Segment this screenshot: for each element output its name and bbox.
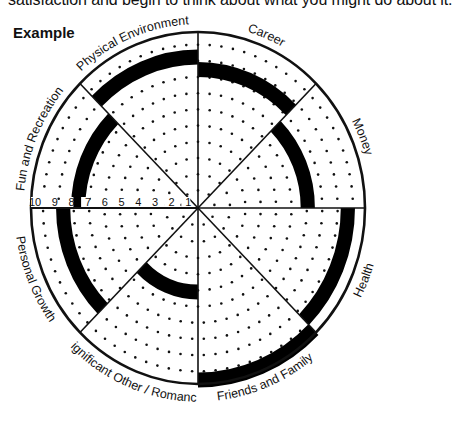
ring-dot [71,302,74,305]
ring-dot [90,185,93,188]
ring-dot [273,188,276,191]
ring-dot [320,139,323,142]
ring-dot [311,258,314,261]
ring-dot [162,298,165,301]
ring-dot [108,237,111,240]
ring-dot [348,173,351,176]
ring-dot [118,260,121,263]
ring-dot [276,154,279,157]
ring-dot [100,289,103,292]
ring-dot [152,293,155,296]
ring-dot [185,158,188,161]
ring-dot [168,334,171,337]
ring-dot [264,166,267,169]
ring-dot [295,257,298,260]
ring-dot [286,176,289,179]
ring-dot [173,302,176,305]
ring-dot [258,155,261,158]
ring-dot [261,279,264,282]
ring-number: 4 [135,196,141,208]
ring-dot [88,210,91,213]
segment-label: Money [349,116,376,157]
score-band-health [299,208,355,325]
ring-dot [93,108,96,111]
ring-dot [248,344,251,347]
ring-dot [87,269,90,272]
ring-dot [78,246,81,249]
ring-dot [157,314,160,317]
ring-dot [141,177,144,180]
ring-dot [301,108,304,111]
ring-dot [242,120,245,123]
ring-dot [121,103,124,106]
ring-dot [239,158,242,161]
ring-dot [294,80,297,83]
ring-dot [244,201,247,204]
ring-dot [334,234,337,237]
ring-dot [93,279,96,282]
ring-dot [253,177,256,180]
ring-dot [174,95,177,98]
ring-dot [265,60,268,63]
ring-number: 7 [85,196,91,208]
ring-dot [268,314,271,317]
ring-dot [185,175,188,178]
ring-dot [182,216,185,219]
ring-dot [315,128,318,131]
ring-dot [179,336,182,339]
ring-dot [115,326,118,329]
ring-dot [315,246,318,249]
ring-dot [103,213,106,216]
ring-dot [203,354,206,357]
ring-dot [82,258,85,261]
ring-dot [289,268,292,271]
ring-dot [236,235,239,238]
ring-dot [269,270,272,273]
ring-dot [99,80,102,83]
ring-dot [299,246,302,249]
score-band-fun-and-recreation [71,113,118,208]
ring-dot [134,356,137,359]
ring-dot [247,167,250,170]
ring-dot [164,150,167,153]
ring-dot [90,88,93,91]
ring-dot [214,336,217,339]
ring-dot [162,81,165,84]
ring-dot [264,248,267,251]
ring-dot [163,133,166,136]
ring-dot [266,295,269,298]
ring-dot [300,279,303,282]
ring-dot [319,185,322,188]
ring-dot [164,263,167,266]
ring-dot [112,111,115,114]
ring-dot [249,361,252,364]
ring-dot [208,175,211,178]
ring-dot [124,177,127,180]
ring-dot [270,177,273,180]
ring-dot [275,213,278,216]
ring-dot [156,364,159,367]
ring-dot [112,165,115,168]
ring-dot [102,151,105,154]
ring-dot [219,251,222,254]
ring-dot [173,45,176,48]
ring-dot [262,115,265,118]
ring-dot [136,155,139,158]
ring-dot [175,251,178,254]
ring-dot [290,201,293,204]
ring-dot [342,149,345,152]
ring-dot [136,189,139,192]
ring-dot [147,247,150,250]
ring-dot [225,192,228,195]
ring-dot [152,102,155,105]
ring-dot [141,236,144,239]
ring-number-labels: 10987654321 [29,196,191,208]
ring-dot [228,244,231,247]
ring-dot [165,169,168,172]
ring-dot [124,237,127,240]
ring-dot [281,249,284,252]
ring-dot [54,270,57,273]
ring-dot [162,48,165,51]
ring-dot [142,286,145,289]
ring-dot [116,307,119,310]
